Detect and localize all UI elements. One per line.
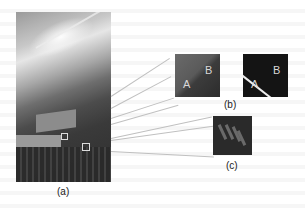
leader-line [111,76,172,109]
panel-b-edge-patch: A B [243,54,288,97]
panel-c-window-patch [213,116,252,155]
marker-patch-b [61,133,68,140]
region-a-label: A [183,78,190,90]
caption-c: (c) [226,160,238,171]
marker-patch-c [82,143,90,151]
sun-glare [23,12,99,65]
caption-a: (a) [57,186,69,197]
apartment-block [16,147,111,182]
region-b-label: B [273,64,280,76]
caption-b: (b) [224,99,236,110]
building [36,109,76,133]
region-a-label: A [251,78,258,90]
rooftop [16,135,61,147]
edge-line [243,72,288,97]
panel-a-photo [16,12,111,182]
leader-line [111,151,214,157]
panel-b-input-patch: A B [175,54,220,97]
region-b-label: B [205,64,212,76]
